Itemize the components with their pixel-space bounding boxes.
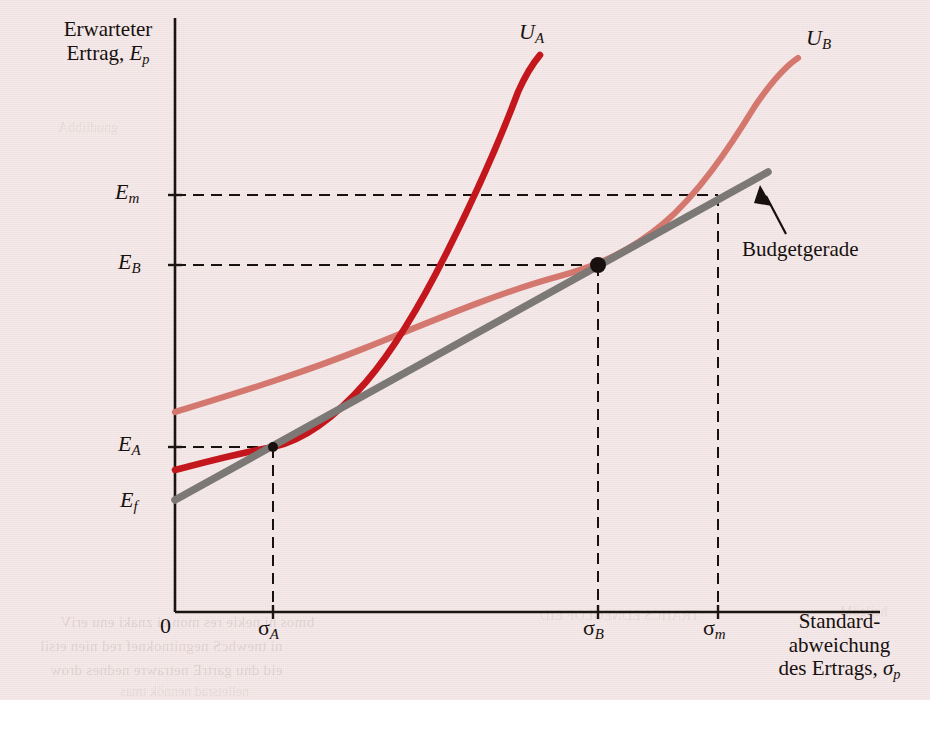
budget-callout-arrowhead bbox=[754, 185, 772, 206]
x-tick-sigma-m-sub: m bbox=[715, 626, 726, 642]
indifference-curve-b bbox=[175, 58, 798, 412]
y-tick-em-sub: m bbox=[128, 190, 139, 206]
x-tick-sigma-m-var: σ bbox=[703, 615, 715, 640]
x-axis-title-variable: σ bbox=[883, 656, 893, 680]
x-tick-label-sigma-m: σm bbox=[703, 616, 726, 643]
x-tick-label-sigma-a: σA bbox=[258, 616, 279, 643]
y-tick-label-ea: EA bbox=[118, 432, 141, 459]
y-tick-ef-var: E bbox=[120, 487, 133, 512]
y-tick-label-eb: EB bbox=[118, 250, 141, 277]
y-axis-title: Erwarteter Ertrag, Ep bbox=[33, 18, 183, 66]
x-tick-sigma-b-var: σ bbox=[583, 615, 595, 640]
y-tick-em-var: E bbox=[115, 179, 128, 204]
budget-line-label: Budgetgerade bbox=[742, 238, 859, 262]
y-tick-eb-sub: B bbox=[131, 260, 140, 276]
origin-label: 0 bbox=[160, 614, 171, 639]
y-tick-label-em: Em bbox=[115, 180, 139, 207]
curve-label-ua-var: U bbox=[519, 19, 535, 44]
y-axis-title-line1: Erwarteter bbox=[33, 18, 183, 42]
y-axis-title-variable: E bbox=[130, 41, 143, 65]
curve-label-ub-var: U bbox=[806, 25, 822, 50]
y-tick-eb-var: E bbox=[118, 249, 131, 274]
tangency-point-a bbox=[268, 442, 278, 452]
y-tick-label-ef: Ef bbox=[120, 488, 138, 515]
x-tick-sigma-a-var: σ bbox=[258, 615, 270, 640]
x-axis-title-line1: Standard- bbox=[752, 610, 927, 634]
x-axis-title-line3: des Ertrags, σp bbox=[752, 657, 927, 682]
curve-label-ua: UA bbox=[519, 20, 544, 47]
curve-label-ub-sub: B bbox=[822, 36, 831, 52]
x-axis-title-line3-text: des Ertrags, bbox=[779, 656, 878, 680]
y-tick-ea-sub: A bbox=[131, 442, 140, 458]
y-axis-title-line2-text: Ertrag, bbox=[67, 41, 125, 65]
y-tick-ea-var: E bbox=[118, 431, 131, 456]
indifference-curve-a bbox=[175, 55, 540, 470]
figure-page: gnudlibbA bmos ni nekie res mon ei znaki… bbox=[0, 0, 946, 735]
y-axis-title-subscript: p bbox=[142, 51, 149, 67]
curve-label-ub: UB bbox=[806, 26, 831, 53]
x-tick-label-sigma-b: σB bbox=[583, 616, 604, 643]
x-tick-sigma-b-sub: B bbox=[595, 626, 604, 642]
budget-line bbox=[175, 172, 768, 500]
y-tick-ef-sub: f bbox=[133, 498, 137, 514]
y-axis-title-line2: Ertrag, Ep bbox=[33, 42, 183, 67]
x-tick-sigma-a-sub: A bbox=[270, 626, 279, 642]
x-axis-title-line2: abweichung bbox=[752, 634, 927, 658]
tangency-point-b bbox=[590, 257, 606, 273]
curve-label-ua-sub: A bbox=[535, 30, 544, 46]
x-axis-title: Standard- abweichung des Ertrags, σp bbox=[752, 610, 927, 682]
x-axis-title-subscript: p bbox=[893, 666, 900, 682]
